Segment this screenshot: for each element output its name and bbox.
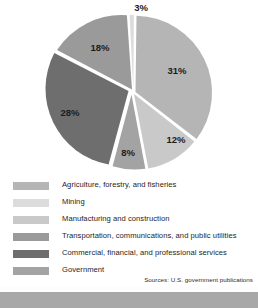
legend-item-agriculture[interactable]: Agriculture, forestry, and fisheries [13, 182, 251, 191]
legend-item-commercial[interactable]: Commercial, financial, and professional … [13, 250, 251, 259]
legend-swatch-mining [13, 199, 49, 207]
legend-item-mining[interactable]: Mining [13, 199, 251, 208]
legend-swatch-manufacturing [13, 216, 49, 224]
pie-label-3: 3% [134, 2, 148, 13]
source-note: Sources: U.S. government publications [144, 276, 253, 283]
pie-chart-figure: 31% 12% 8% 28% 18% 3% Agriculture, fores… [0, 0, 258, 308]
chart-legend: Agriculture, forestry, and fisheries Min… [0, 176, 258, 286]
legend-label-commercial: Commercial, financial, and professional … [62, 248, 227, 257]
pie-label-8: 8% [121, 147, 135, 158]
pie-label-28: 28% [60, 107, 79, 118]
pie-label-12: 12% [166, 134, 185, 145]
legend-label-transportation: Transportation, communications, and publ… [62, 231, 237, 240]
pie-label-31: 31% [167, 65, 186, 76]
pie-chart-plot-area: 31% 12% 8% 28% 18% 3% [0, 0, 258, 176]
legend-label-government: Government [62, 265, 104, 274]
legend-label-manufacturing: Manufacturing and construction [62, 214, 169, 223]
legend-item-transportation[interactable]: Transportation, communications, and publ… [13, 233, 251, 242]
bottom-gray-bar [0, 292, 258, 308]
legend-label-agriculture: Agriculture, forestry, and fisheries [62, 180, 176, 189]
legend-swatch-agriculture [13, 182, 49, 190]
legend-item-government[interactable]: Government [13, 267, 251, 276]
legend-item-manufacturing[interactable]: Manufacturing and construction [13, 216, 251, 225]
legend-swatch-commercial [13, 250, 49, 258]
legend-swatch-transportation [13, 233, 49, 241]
pie-label-18: 18% [90, 42, 109, 53]
legend-label-mining: Mining [62, 197, 85, 206]
legend-swatch-government [13, 267, 49, 275]
